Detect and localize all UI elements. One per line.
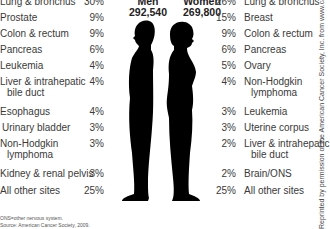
men-site: Colon & rectum: [0, 29, 69, 39]
women-pct: 2%: [208, 169, 236, 179]
women-site: Non-Hodgkin: [244, 77, 302, 87]
men-site: Non-Hodgkin: [0, 139, 58, 149]
men-site: Urinary bladder: [2, 123, 70, 133]
women-pct: 3%: [208, 123, 236, 133]
women-site: Liver & intrahepatic: [244, 139, 330, 149]
footnote: ONS=other nervous system.: [0, 215, 63, 221]
men-site-cont: lymphoma: [0, 150, 53, 160]
women-site-cont: bile duct: [244, 150, 288, 160]
men-site: All other sites: [0, 186, 60, 196]
women-site: Lung & bronchus: [244, 0, 320, 7]
men-pct: 4%: [74, 77, 104, 87]
men-pct: 4%: [74, 61, 104, 71]
men-pct: 9%: [74, 29, 104, 39]
women-pct: 25%: [208, 186, 236, 196]
women-pct: 15%: [208, 13, 236, 23]
men-site: Pancreas: [0, 45, 42, 55]
men-pct: 3%: [74, 169, 104, 179]
men-count: 292,540: [118, 7, 178, 18]
men-site-cont: bile duct: [0, 88, 44, 98]
women-pct: 4%: [208, 77, 236, 87]
source-note: Source: American Cancer Society, 2009.: [0, 222, 90, 228]
men-pct: 3%: [74, 139, 104, 149]
women-pct: 5%: [208, 61, 236, 71]
women-site: All other sites: [244, 186, 304, 196]
women-pct: 6%: [208, 45, 236, 55]
men-header: Men 292,540: [118, 0, 178, 18]
women-site: Brain/ONS: [244, 169, 292, 179]
woman-silhouette-icon: [162, 18, 208, 208]
women-site: Ovary: [244, 61, 271, 71]
women-site-cont: lymphoma: [244, 88, 297, 98]
women-pct: 9%: [208, 29, 236, 39]
credit-text: Reprinted by permission of the American …: [318, 0, 326, 229]
women-site: Pancreas: [244, 45, 286, 55]
women-site: Leukemia: [244, 107, 287, 117]
men-site: Leukemia: [0, 61, 43, 71]
men-pct: 4%: [74, 107, 104, 117]
men-pct: 9%: [74, 13, 104, 23]
women-pct: 26%: [208, 0, 236, 7]
women-site: Colon & rectum: [244, 29, 313, 39]
men-pct: 6%: [74, 45, 104, 55]
women-site: Breast: [244, 13, 273, 23]
men-site: Prostate: [0, 13, 37, 23]
women-pct: 3%: [208, 107, 236, 117]
men-pct: 3%: [74, 123, 104, 133]
men-pct: 30%: [74, 0, 104, 7]
men-site: Lung & bronchus: [0, 0, 76, 7]
man-silhouette-icon: [118, 18, 162, 208]
men-site: Esophagus: [0, 107, 50, 117]
women-pct: 2%: [208, 139, 236, 149]
men-site: Liver & intrahepatic: [0, 77, 86, 87]
women-site: Uterine corpus: [244, 123, 309, 133]
men-pct: 25%: [74, 186, 104, 196]
